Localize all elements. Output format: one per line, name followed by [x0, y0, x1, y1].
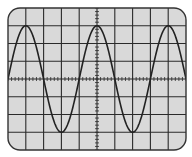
oscilloscope-display — [0, 0, 192, 157]
